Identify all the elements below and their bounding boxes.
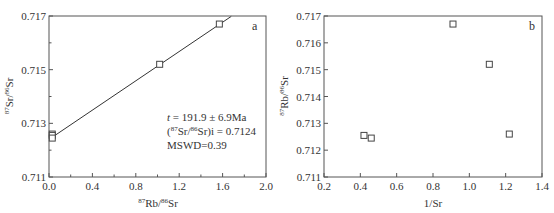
chart-b-plot-area xyxy=(361,21,512,141)
x-tick-label: 1.4 xyxy=(535,180,549,192)
x-tick-label: 1.2 xyxy=(172,180,186,192)
y-tick-label: 0.712 xyxy=(296,144,321,156)
y-tick-label: 0.711 xyxy=(22,171,46,183)
chart-b-ratio-vs-inverse-sr: 0.20.40.60.81.01.21.40.7110.7120.7130.71… xyxy=(277,0,554,213)
data-point-square xyxy=(49,135,55,141)
age-annotation: t = 191.9 ± 6.9Ma xyxy=(167,111,247,123)
y-tick-label: 0.713 xyxy=(21,117,46,129)
chart-a-x-axis-title: 87Rb/86Sr xyxy=(138,197,178,209)
data-point-square xyxy=(450,21,456,27)
chart-a-rb-sr-isochron: 0.00.40.81.21.62.00.7110.7130.7150.717 a… xyxy=(0,0,277,213)
y-tick-label: 0.717 xyxy=(21,10,46,22)
data-point-square xyxy=(361,132,367,138)
x-tick-label: 0.4 xyxy=(86,180,100,192)
chart-b-axes: 0.20.40.60.81.01.21.40.7110.7120.7130.71… xyxy=(296,10,549,192)
chart-b-frame xyxy=(324,16,542,177)
x-tick-label: 1.0 xyxy=(462,180,476,192)
chart-b-y-axis-title: 87Rb/86Sr xyxy=(278,76,290,116)
x-tick-label: 1.2 xyxy=(499,180,513,192)
initial-ratio-annotation: (87Sr/86Sr)i = 0.7124 xyxy=(167,125,256,138)
x-tick-label: 0.4 xyxy=(353,180,367,192)
chart-b-svg: 0.20.40.60.81.01.21.40.7110.7120.7130.71… xyxy=(277,0,554,213)
y-tick-label: 0.717 xyxy=(296,10,321,22)
data-point-square xyxy=(506,131,512,137)
chart-a-panel-label: a xyxy=(252,19,258,33)
y-tick-label: 0.713 xyxy=(296,117,321,129)
x-tick-label: 1.6 xyxy=(216,180,230,192)
chart-a-svg: 0.00.40.81.21.62.00.7110.7130.7150.717 a… xyxy=(0,0,277,213)
x-tick-label: 2.0 xyxy=(259,180,273,192)
data-point-square xyxy=(216,21,222,27)
data-point-square xyxy=(368,135,374,141)
x-tick-label: 0.8 xyxy=(426,180,440,192)
data-point-square xyxy=(157,61,163,67)
chart-b-panel-label: b xyxy=(529,19,535,33)
x-tick-label: 0.8 xyxy=(129,180,143,192)
chart-a-isochron-annotation: t = 191.9 ± 6.9Ma (87Sr/86Sr)i = 0.7124 … xyxy=(167,111,256,151)
chart-a-frame xyxy=(49,16,266,177)
y-tick-label: 0.716 xyxy=(296,37,321,49)
chart-a-axes: 0.00.40.81.21.62.00.7110.7130.7150.717 xyxy=(21,10,273,192)
data-point-square xyxy=(486,61,492,67)
y-tick-label: 0.714 xyxy=(296,91,321,103)
y-tick-label: 0.711 xyxy=(297,171,321,183)
y-tick-label: 0.715 xyxy=(296,64,321,76)
chart-b-x-axis-title: 1/Sr xyxy=(424,197,443,209)
chart-a-y-axis-title: 87Sr/86Sr xyxy=(3,77,15,114)
mswd-annotation: MSWD=0.39 xyxy=(167,139,227,151)
y-tick-label: 0.715 xyxy=(21,64,46,76)
x-tick-label: 0.6 xyxy=(390,180,404,192)
